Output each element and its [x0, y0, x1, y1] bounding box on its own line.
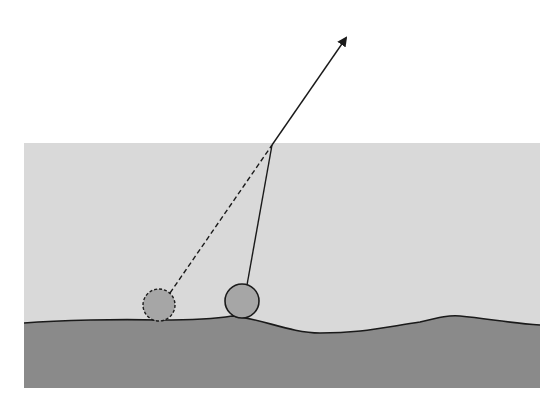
diagram-canvas — [0, 0, 560, 413]
ball-current-position — [225, 284, 259, 318]
direction-arrow — [272, 38, 346, 145]
ball-previous-position — [143, 289, 175, 321]
